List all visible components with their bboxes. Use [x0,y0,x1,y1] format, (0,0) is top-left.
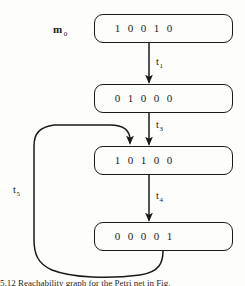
marking-digit: 0 [150,93,163,104]
marking-digit: 1 [150,23,163,34]
marking-box-m1[interactable]: 0 1 0 0 0 [94,84,233,113]
marking-digit: 0 [150,231,163,242]
marking-digit: 0 [163,23,176,34]
transition-subscript: 3 [159,125,163,133]
marking-digit: 0 [124,23,137,34]
transition-label-t1: t1 [156,57,163,70]
marking-digit: 0 [111,231,124,242]
marking-digit: 0 [163,155,176,166]
marking-digit: 0 [111,93,124,104]
marking-digit: 0 [124,155,137,166]
marking-box-m0[interactable]: 1 0 0 1 0 [94,14,233,43]
marking-digit: 0 [137,231,150,242]
transition-subscript: 4 [159,196,163,204]
marking-vector-m0: 1 0 0 1 0 [111,23,176,34]
figure-canvas: m0 1 0 0 1 0 0 1 0 0 0 1 0 1 0 0 0 [0,0,245,286]
initial-marking-label: m0 [53,23,67,38]
initial-marking-symbol: m [53,23,62,35]
marking-digit: 0 [150,155,163,166]
marking-digit: 1 [111,23,124,34]
initial-marking-subscript: 0 [62,30,67,38]
marking-digit: 1 [124,93,137,104]
marking-digit: 0 [137,23,150,34]
transition-label-t5: t5 [13,185,20,198]
figure-caption-partial: 5.12 Reachability graph for the Petri ne… [0,278,245,286]
transition-subscript: 1 [159,62,163,70]
marking-digit: 0 [163,93,176,104]
marking-digit: 1 [163,231,176,242]
marking-box-m2[interactable]: 1 0 1 0 0 [94,146,233,175]
transition-label-t4: t4 [156,191,163,204]
transition-label-t3: t3 [156,120,163,133]
marking-vector-m2: 1 0 1 0 0 [111,155,176,166]
marking-digit: 1 [111,155,124,166]
marking-digit: 0 [137,93,150,104]
marking-vector-m1: 0 1 0 0 0 [111,93,176,104]
marking-digit: 1 [137,155,150,166]
transition-subscript: 5 [16,190,20,198]
marking-digit: 0 [124,231,137,242]
marking-box-m3[interactable]: 0 0 0 0 1 [94,222,233,251]
marking-vector-m3: 0 0 0 0 1 [111,231,176,242]
